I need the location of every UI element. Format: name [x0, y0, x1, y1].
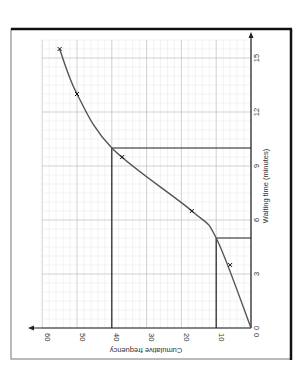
frequency-axis-title: Cumulative frequency	[109, 346, 182, 355]
time-tick-label: 9	[252, 164, 261, 168]
time-tick-label: 12	[252, 108, 261, 116]
time-axis-title: Waiting time (minutes)	[261, 148, 270, 223]
time-tick-label: 3	[252, 272, 261, 276]
frequency-tick-label: 50	[78, 333, 87, 341]
time-tick-label: 0	[252, 326, 261, 330]
frequency-tick-label: 40	[112, 333, 121, 341]
cumulative-frequency-chart: 0102030405060 03691215 Waiting time (min…	[0, 0, 304, 378]
time-tick-label: 6	[252, 218, 261, 222]
time-tick-label: 15	[252, 54, 261, 62]
frequency-tick-label: 30	[147, 333, 156, 341]
frequency-tick-label: 10	[217, 333, 226, 341]
frame	[11, 29, 292, 360]
frequency-tick-label: 60	[43, 333, 52, 341]
frequency-tick-label: 0	[252, 333, 261, 337]
frequency-tick-label: 20	[182, 333, 191, 341]
